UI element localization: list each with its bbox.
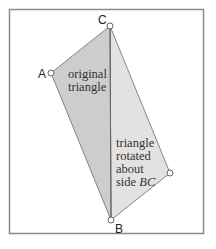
original-label-line1: original bbox=[68, 67, 107, 81]
label-c: C bbox=[98, 13, 107, 27]
rotation-diagram: C A B original triangle triangle rotated… bbox=[0, 0, 216, 249]
vertex-a-marker bbox=[48, 70, 54, 76]
rotated-label-line2: rotated bbox=[116, 149, 151, 163]
label-b: B bbox=[115, 222, 123, 236]
rotated-label-line3: about bbox=[116, 162, 144, 176]
vertex-c-marker bbox=[107, 23, 113, 29]
label-a: A bbox=[38, 67, 46, 81]
rotated-label-line4: side BC bbox=[116, 175, 156, 189]
rotated-label-line1: triangle bbox=[116, 136, 155, 150]
rotated-label-side-name: BC bbox=[139, 175, 156, 189]
vertex-rotated-marker bbox=[167, 170, 173, 176]
vertex-b-marker bbox=[108, 217, 114, 223]
original-label-line2: triangle bbox=[68, 80, 107, 94]
rotated-label-side-prefix: side bbox=[116, 175, 139, 189]
